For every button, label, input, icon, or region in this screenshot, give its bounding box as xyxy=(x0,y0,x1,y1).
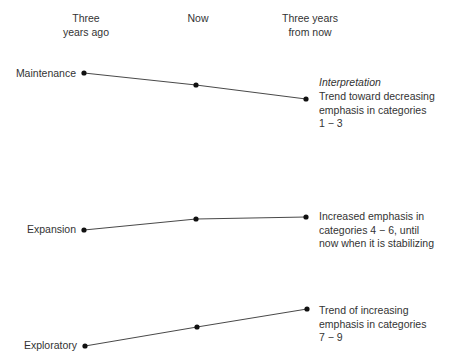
category-label: Expansion xyxy=(27,223,76,237)
time-header: Now xyxy=(187,12,208,26)
data-point xyxy=(303,214,308,219)
interpretation-title: Interpretation xyxy=(319,76,381,90)
category-label: Exploratory xyxy=(24,339,77,353)
interpretation-text: Trend of increasingemphasis in categorie… xyxy=(319,304,426,345)
data-point xyxy=(81,70,86,75)
interpretation-text: Trend toward decreasingemphasis in categ… xyxy=(319,90,435,131)
category-label: Maintenance xyxy=(16,67,76,81)
time-header: Three yearsfrom now xyxy=(282,12,338,39)
data-point xyxy=(81,227,86,232)
time-header: Threeyears ago xyxy=(63,12,109,39)
data-point xyxy=(194,324,199,329)
data-point xyxy=(193,216,198,221)
data-point xyxy=(304,306,309,311)
data-point xyxy=(82,343,87,348)
interpretation-text: Increased emphasis incategories 4 − 6, u… xyxy=(319,210,434,251)
data-point xyxy=(193,82,198,87)
data-point xyxy=(303,96,308,101)
